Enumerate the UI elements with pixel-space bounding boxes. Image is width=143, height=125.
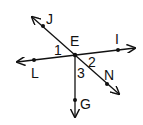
angle-diagram: J E I L N G 1 2 3 xyxy=(0,0,143,125)
point-L xyxy=(32,58,36,62)
label-J: J xyxy=(46,11,53,27)
point-E xyxy=(73,53,77,57)
point-G xyxy=(73,98,77,102)
angle-1-label: 1 xyxy=(54,42,62,58)
label-G: G xyxy=(80,96,91,112)
label-I: I xyxy=(115,31,119,47)
point-I xyxy=(116,48,120,52)
angle-2-label: 2 xyxy=(88,54,96,70)
point-J xyxy=(41,24,45,28)
angle-3-label: 3 xyxy=(77,65,85,81)
label-E: E xyxy=(70,33,79,49)
label-N: N xyxy=(104,67,114,83)
label-L: L xyxy=(31,65,39,81)
